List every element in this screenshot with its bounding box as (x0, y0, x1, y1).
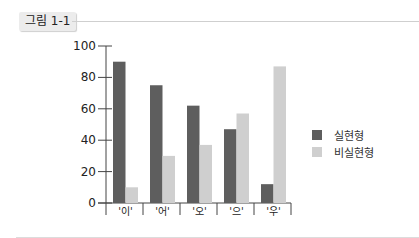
legend-swatch-realized (312, 130, 322, 140)
x-category-label: '어' (155, 206, 170, 217)
y-tick-label: 60 (81, 102, 96, 116)
legend-label-realized: 실현형 (334, 127, 364, 143)
y-tick-label: 100 (73, 39, 96, 53)
x-category-label: '이' (118, 206, 133, 217)
y-tick-label: 0 (88, 196, 96, 210)
bar-realized (187, 106, 200, 203)
legend-item-unrealized: 비실현형 (312, 143, 374, 160)
legend-item-realized: 실현형 (312, 126, 374, 143)
bottom-divider (16, 237, 419, 238)
bar-unrealized (163, 156, 176, 203)
y-tick-label: 40 (81, 133, 96, 147)
bar-unrealized (200, 145, 213, 203)
bar-realized (113, 62, 126, 203)
bar-unrealized (237, 114, 250, 203)
y-tick-label: 20 (81, 165, 96, 179)
y-tick-label: 80 (81, 70, 96, 84)
legend-label-unrealized: 비실현형 (334, 144, 374, 160)
x-category-label: '우' (266, 206, 281, 217)
x-category-label: '오' (192, 206, 207, 217)
bar-realized (150, 85, 163, 203)
legend-swatch-unrealized (312, 147, 322, 157)
bar-realized (261, 184, 274, 203)
x-category-label: '으' (229, 206, 244, 217)
bar-realized (224, 129, 237, 203)
legend: 실현형 비실현형 (312, 126, 374, 160)
bar-unrealized (274, 66, 287, 203)
bar-chart: 020406080100'이''어''오''으''우' (0, 0, 419, 238)
bar-unrealized (126, 187, 139, 203)
